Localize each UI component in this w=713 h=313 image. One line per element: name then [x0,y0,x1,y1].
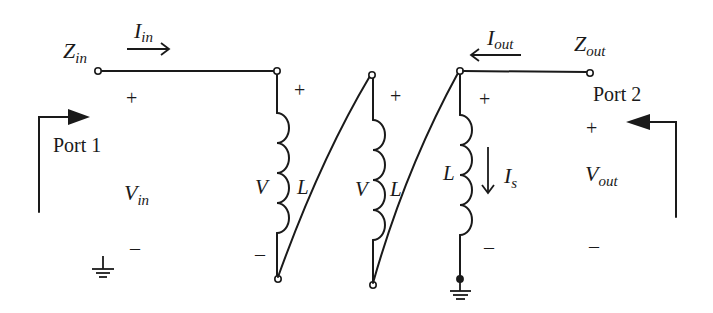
i-s-label: Is [503,163,517,191]
inductor-3-plus-sign: + [479,88,490,110]
inductor-1 [274,68,289,282]
z-in-label: Zin [63,38,87,66]
ground-icon-left [92,256,114,277]
inductor-1-inductance-label: L [296,175,309,199]
port-2-plus-sign: + [586,117,597,139]
inductor-2-inductance-label: L [389,177,402,201]
port-2-label: Port 2 [593,83,641,105]
circuit-diagram: Zin Iin Iout Zout Port 1 Port 2 Vin Vout… [0,0,713,313]
port-2-arrow-icon [626,114,676,217]
output-terminal [587,70,593,76]
inductor-3-minus-sign: – [483,236,495,258]
port-1-arrow-icon [39,109,90,212]
inductor-2-voltage-label: V [355,177,370,201]
inductor-2-top-terminal [369,72,375,78]
inductor-3-inductance-label: L [442,161,455,185]
v-in-label: Vin [124,180,149,208]
output-wire [463,70,593,76]
i-in-label: Iin [133,18,153,45]
port-1-minus-sign: – [129,237,141,259]
inductor-3 [457,68,472,282]
inductor-2 [369,72,385,288]
inductor-1-top-terminal [274,68,280,74]
i-out-label: Iout [486,25,514,52]
inductor-1-voltage-label: V [255,175,270,199]
z-out-label: Zout [574,31,606,59]
i-s-arrow-icon [482,147,494,193]
input-terminal [95,68,101,74]
port-2-minus-sign: – [588,235,600,257]
input-wire [95,68,277,74]
inductor-3-bottom-node [457,276,463,282]
inductor-2-plus-sign: + [390,85,401,107]
ground-icon-right [450,282,471,299]
v-out-label: Vout [585,161,618,189]
inductor-1-plus-sign: + [294,79,305,101]
port-1-plus-sign: + [126,87,137,109]
port-1-label: Port 1 [53,134,101,156]
inductor-1-minus-sign: – [254,243,266,265]
